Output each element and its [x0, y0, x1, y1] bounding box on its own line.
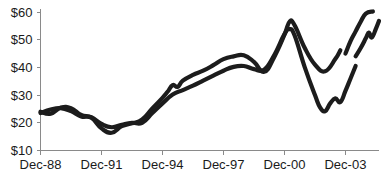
y-tick-label: $60: [11, 5, 33, 20]
x-axis-labels: Dec-88Dec-91Dec-94Dec-97Dec-00Dec-03: [20, 157, 367, 172]
x-tick-label: Dec-91: [81, 157, 123, 172]
x-tick-label: Dec-94: [142, 157, 184, 172]
x-tick-label: Dec-97: [203, 157, 245, 172]
chart-canvas: $10$20$30$40$50$60 Dec-88Dec-91Dec-94Dec…: [0, 0, 384, 187]
data-series-group: [41, 11, 380, 132]
x-axis-ticks: [41, 151, 346, 155]
y-tick-label: $40: [11, 60, 33, 75]
x-tick-label: Dec-03: [324, 157, 366, 172]
series-series-1: [41, 29, 356, 127]
y-tick-label: $30: [11, 88, 33, 103]
y-axis-labels: $10$20$30$40$50$60: [11, 5, 33, 159]
line-chart: $10$20$30$40$50$60 Dec-88Dec-91Dec-94Dec…: [0, 0, 384, 187]
y-axis-ticks: [37, 12, 41, 151]
x-tick-label: Dec-88: [20, 157, 62, 172]
y-tick-label: $20: [11, 115, 33, 130]
y-tick-label: $50: [11, 32, 33, 47]
x-tick-label: Dec-00: [264, 157, 306, 172]
